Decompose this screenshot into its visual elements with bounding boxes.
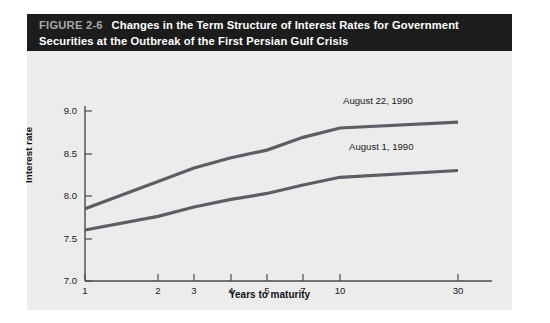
x-axis-ticks bbox=[85, 274, 458, 281]
y-tick-label: 8.0 bbox=[47, 190, 77, 201]
series-label-august-1: August 1, 1990 bbox=[349, 141, 414, 152]
y-tick-label: 8.5 bbox=[47, 148, 77, 159]
chart-panel: 9.0 8.5 8.0 7.5 7.0 1 2 3 4 5 7 10 30 In… bbox=[27, 51, 512, 310]
y-axis-title: Interest rate bbox=[23, 127, 34, 183]
figure-number-label: FIGURE 2-6 bbox=[39, 19, 103, 31]
y-tick-label: 7.5 bbox=[47, 233, 77, 244]
y-tick-label: 9.0 bbox=[47, 105, 77, 116]
title-spacer bbox=[103, 19, 112, 31]
series-line-august-22 bbox=[85, 122, 458, 209]
figure-container: FIGURE 2-6 Changes in the Term Structure… bbox=[0, 0, 550, 323]
y-axis-ticks bbox=[85, 111, 92, 281]
figure-title-bar: FIGURE 2-6 Changes in the Term Structure… bbox=[27, 14, 512, 51]
series-line-august-1 bbox=[85, 171, 458, 231]
series-label-august-22: August 22, 1990 bbox=[343, 95, 413, 106]
chart-plot-area bbox=[27, 51, 512, 310]
figure-title-text: FIGURE 2-6 Changes in the Term Structure… bbox=[39, 18, 502, 49]
y-tick-label: 7.0 bbox=[47, 275, 77, 286]
x-axis-title: Years to maturity bbox=[27, 289, 512, 300]
